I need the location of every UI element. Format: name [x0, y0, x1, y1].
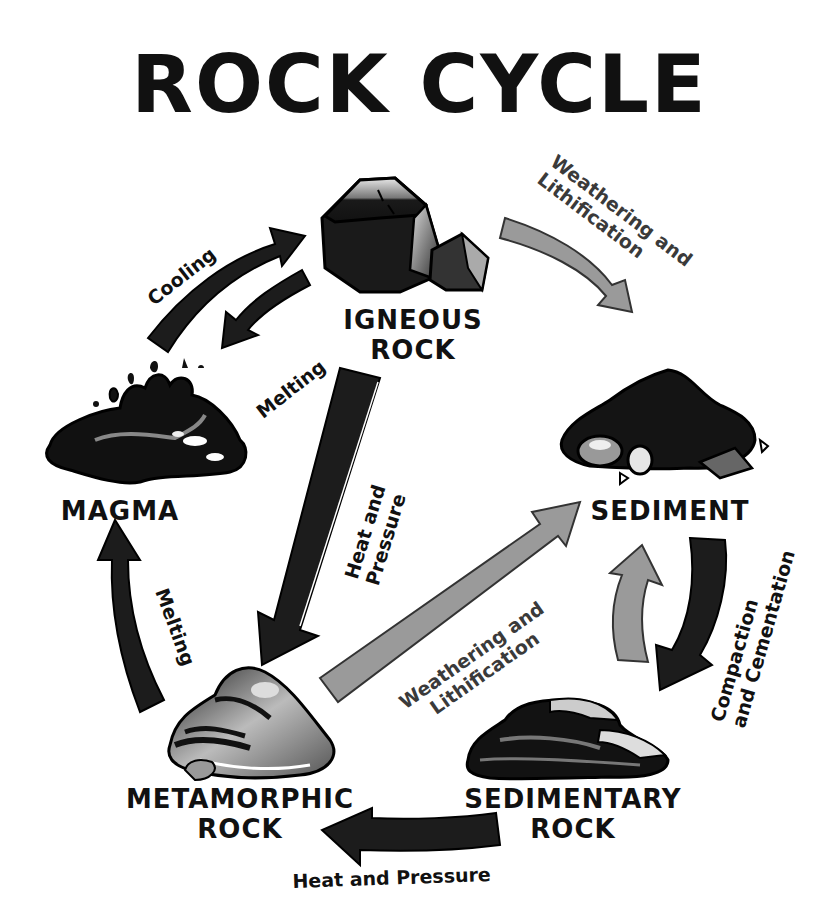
node-magma: MAGMA: [30, 496, 210, 526]
magma-label: MAGMA: [30, 496, 210, 526]
melting-arrow-metamorphic: [98, 520, 164, 712]
node-metamorphic-rock: METAMORPHIC ROCK: [120, 784, 360, 844]
compaction-arrow: [656, 538, 726, 690]
sedimentary-rock-icon: [467, 698, 668, 778]
metamorphic-label-line2: ROCK: [120, 814, 360, 844]
sedimentary-label-line2: ROCK: [458, 814, 688, 844]
sediment-label: SEDIMENT: [565, 496, 775, 526]
sediment-pile-icon: [561, 370, 768, 484]
igneous-rock-icon: [322, 178, 488, 292]
node-sediment: SEDIMENT: [565, 496, 775, 526]
diagram-graphics: [0, 0, 839, 921]
metamorphic-rock-icon: [169, 668, 334, 780]
metamorphic-label-line1: METAMORPHIC: [120, 784, 360, 814]
magma-puddle-icon: [47, 358, 246, 483]
node-sedimentary-rock: SEDIMENTARY ROCK: [458, 784, 688, 844]
melting-arrow-igneous: [222, 270, 310, 348]
igneous-label-line2: ROCK: [323, 335, 503, 365]
node-igneous-rock: IGNEOUS ROCK: [323, 305, 503, 365]
sedimentary-label-line1: SEDIMENTARY: [458, 784, 688, 814]
weathering-arrow-sedimentary: [610, 545, 662, 662]
rock-cycle-diagram: ROCK CYCLE: [0, 0, 839, 921]
igneous-label-line1: IGNEOUS: [323, 305, 503, 335]
